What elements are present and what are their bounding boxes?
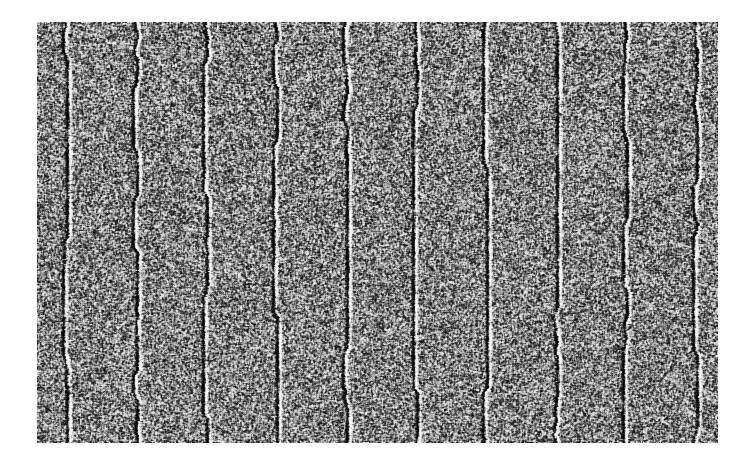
figure-root	[0, 0, 754, 465]
noise-canvas	[37, 22, 718, 443]
noise-texture-image	[37, 22, 718, 443]
